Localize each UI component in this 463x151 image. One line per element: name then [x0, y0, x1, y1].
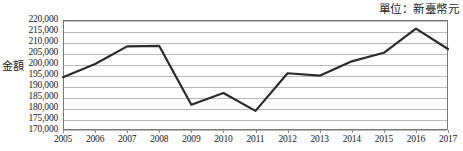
y-axis-tick-label: 205,000 — [29, 48, 58, 58]
x-axis-tick-mark — [159, 130, 160, 133]
x-axis-tick-label: 2014 — [343, 134, 361, 145]
x-axis-tick-mark — [352, 130, 353, 133]
x-axis-tick-label: 2008 — [150, 134, 168, 145]
x-axis-tick-label: 2005 — [54, 134, 72, 145]
y-axis-tick-labels: 220,000215,000210,000205,000200,000195,0… — [0, 20, 61, 130]
x-axis-tick-label: 2006 — [86, 134, 104, 145]
x-axis-tick-label: 2017 — [439, 134, 457, 145]
x-axis-tick-label: 2015 — [375, 134, 393, 145]
line-chart: 單位：新臺幣元 金額 220,000215,000210,000205,0002… — [0, 0, 463, 151]
y-axis-tick-label: 180,000 — [29, 103, 58, 113]
x-axis-tick-label: 2012 — [278, 134, 296, 145]
x-axis-tick-mark — [63, 130, 64, 133]
y-axis-tick-label: 220,000 — [29, 15, 58, 25]
x-axis-tick-mark — [288, 130, 289, 133]
x-axis-tick-label: 2013 — [311, 134, 329, 145]
x-axis-tick-mark — [320, 130, 321, 133]
y-axis-tick-label: 195,000 — [29, 70, 58, 80]
x-axis-tick-mark — [256, 130, 257, 133]
y-axis-tick-label: 215,000 — [29, 26, 58, 36]
x-axis-tick-mark — [127, 130, 128, 133]
x-axis-tick-mark — [223, 130, 224, 133]
x-axis-tick-label: 2011 — [247, 134, 265, 145]
y-axis-tick-label: 185,000 — [29, 92, 58, 102]
x-axis-tick-label: 2010 — [214, 134, 232, 145]
y-axis-tick-label: 190,000 — [29, 81, 58, 91]
x-axis-tick-label: 2007 — [118, 134, 136, 145]
x-axis-tick-mark — [448, 130, 449, 133]
y-axis-tick-label: 175,000 — [29, 114, 58, 124]
x-axis-tick-mark — [95, 130, 96, 133]
series-line — [63, 20, 448, 130]
x-axis-tick-mark — [384, 130, 385, 133]
data-line — [63, 29, 448, 111]
x-axis-tick-label: 2016 — [407, 134, 425, 145]
x-axis-tick-label: 2009 — [182, 134, 200, 145]
unit-note: 單位：新臺幣元 — [379, 0, 460, 16]
y-axis-tick-label: 200,000 — [29, 59, 58, 69]
x-axis-tick-mark — [191, 130, 192, 133]
x-axis-tick-labels: 2005200620072008200920102011201220132014… — [63, 134, 448, 149]
x-axis-tick-mark — [416, 130, 417, 133]
y-axis-tick-label: 210,000 — [29, 37, 58, 47]
